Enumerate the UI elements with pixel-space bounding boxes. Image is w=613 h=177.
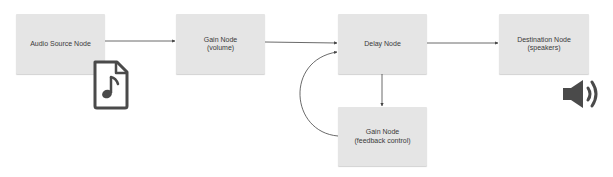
node-label: Gain Node xyxy=(204,36,237,45)
node-sublabel: (feedback control) xyxy=(354,137,410,146)
node-sublabel: (volume) xyxy=(207,44,234,53)
node-label: Audio Source Node xyxy=(30,40,91,49)
node-delay: Delay Node xyxy=(338,14,427,74)
node-label: Delay Node xyxy=(364,40,401,49)
node-label: Gain Node xyxy=(366,128,399,137)
edge-feedback-to-delay xyxy=(300,52,338,136)
diagram-canvas: Audio Source Node Gain Node (volume) Del… xyxy=(0,0,613,177)
node-destination: Destination Node (speakers) xyxy=(499,14,589,74)
speaker-icon xyxy=(561,78,601,110)
edge-gain-to-delay xyxy=(265,42,337,43)
node-gain-volume: Gain Node (volume) xyxy=(176,14,265,74)
audio-file-icon xyxy=(92,60,130,110)
node-gain-feedback: Gain Node (feedback control) xyxy=(338,107,427,166)
node-label: Destination Node xyxy=(517,36,571,45)
node-sublabel: (speakers) xyxy=(527,44,560,53)
